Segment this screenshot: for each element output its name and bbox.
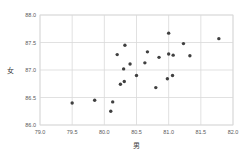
data-point: [171, 74, 174, 77]
x-tick-label: 79.0: [35, 129, 46, 135]
x-tick-label: 80.0: [99, 129, 110, 135]
data-point: [182, 42, 185, 45]
y-tick-label: 86.5: [25, 95, 36, 101]
data-point: [122, 67, 125, 70]
data-point: [167, 31, 170, 34]
data-point: [154, 86, 157, 89]
data-point: [119, 83, 122, 86]
data-point: [70, 101, 73, 104]
data-point: [146, 50, 149, 53]
data-point: [135, 74, 138, 77]
data-point: [217, 37, 220, 40]
x-tick-label: 79.5: [67, 129, 78, 135]
y-tick-label: 87.0: [25, 67, 36, 73]
scatter-plot-svg: 79.079.580.080.581.081.582.086.086.587.0…: [0, 0, 252, 156]
data-point: [157, 56, 160, 59]
x-tick-label: 80.5: [131, 129, 142, 135]
data-point: [111, 100, 114, 103]
data-point: [123, 80, 126, 83]
x-tick-label: 81.5: [195, 129, 206, 135]
data-point: [109, 110, 112, 113]
x-tick-label: 82.0: [228, 129, 239, 135]
data-point: [188, 54, 191, 57]
data-point: [171, 53, 174, 56]
data-point: [116, 53, 119, 56]
data-point: [166, 77, 169, 80]
data-point: [128, 62, 131, 65]
y-tick-label: 88.0: [25, 12, 36, 18]
y-tick-label: 86.0: [25, 122, 36, 128]
data-point: [123, 44, 126, 47]
scatter-chart: 79.079.580.080.581.081.582.086.086.587.0…: [0, 0, 252, 156]
x-tick-label: 81.0: [163, 129, 174, 135]
y-axis-label: 女: [7, 67, 14, 74]
x-axis-label: 男: [40, 142, 233, 149]
data-point: [167, 52, 170, 55]
data-point: [93, 99, 96, 102]
y-tick-label: 87.5: [25, 40, 36, 46]
data-point: [143, 61, 146, 64]
